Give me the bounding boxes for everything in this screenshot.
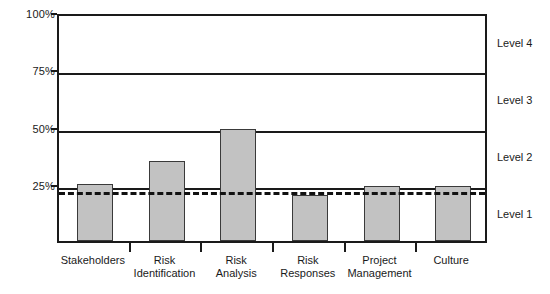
bar-risk-identification	[149, 161, 185, 241]
level-label-level-1: Level 1	[497, 208, 532, 220]
category-label-risk-analysis: Risk Analysis	[200, 254, 272, 280]
level-label-level-2: Level 2	[497, 151, 532, 163]
y-tick-label-25: 25%	[0, 180, 55, 192]
category-label-risk-identification: Risk Identification	[129, 254, 201, 280]
category-label-culture: Culture	[415, 254, 487, 267]
y-tick-label-75: 75%	[0, 65, 55, 77]
bar-risk-responses	[292, 195, 328, 241]
y-tick-label-50: 50%	[0, 123, 55, 135]
category-label-risk-responses: Risk Responses	[272, 254, 344, 280]
level-label-level-3: Level 3	[497, 94, 532, 106]
gridline-25	[59, 188, 485, 190]
bar-chart: 25%50%75%100% StakeholdersRisk Identific…	[0, 0, 550, 294]
plot-area	[57, 14, 487, 243]
threshold-line	[59, 192, 485, 195]
gridline-50	[59, 131, 485, 133]
category-tick-3	[272, 243, 274, 252]
gridline-75	[59, 73, 485, 75]
category-tick-2	[200, 243, 202, 252]
category-tick-4	[344, 243, 346, 252]
category-label-project-management: Project Management	[344, 254, 416, 280]
category-tick-5	[415, 243, 417, 252]
level-label-level-4: Level 4	[497, 37, 532, 49]
y-tick-label-100: 100%	[0, 8, 55, 20]
category-tick-1	[129, 243, 131, 252]
category-label-stakeholders: Stakeholders	[57, 254, 129, 267]
bar-risk-analysis	[220, 129, 256, 241]
